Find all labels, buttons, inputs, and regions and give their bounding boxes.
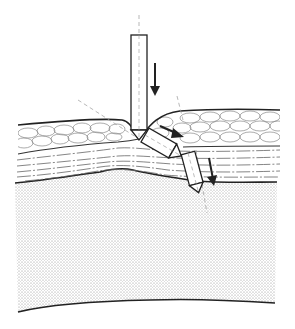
diagram-canvas [0,0,295,329]
down-arrow-icon [150,63,160,96]
deep-stippled-layer [15,169,277,312]
vertical-instrument [131,35,147,140]
